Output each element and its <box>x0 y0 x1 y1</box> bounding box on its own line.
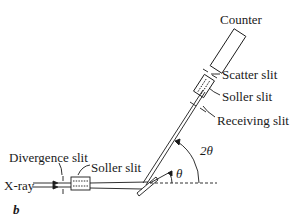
scatter-slit-label: Scatter slit <box>222 68 277 81</box>
panel-label: b <box>13 203 20 216</box>
soller-slit-source <box>71 177 90 190</box>
two-theta-label: 2θ <box>200 144 213 157</box>
scatter-slit <box>203 69 217 78</box>
theta-label: θ <box>176 167 182 180</box>
counter-label: Counter <box>220 13 262 26</box>
soller-slit-receiving-label: Soller slit <box>222 90 272 103</box>
diffractometer-diagram: Counter Scatter slit Soller slit Receivi… <box>0 0 295 221</box>
divergence-slit-label: Divergence slit <box>9 151 88 164</box>
receiving-slit-label: Receiving slit <box>217 114 289 127</box>
incident-beam <box>33 181 148 189</box>
xray-label: X-ray <box>4 179 34 192</box>
diffracted-beam <box>143 90 205 185</box>
diagram-drawing <box>0 0 295 221</box>
soller-slit-source-label: Soller slit <box>91 161 141 174</box>
